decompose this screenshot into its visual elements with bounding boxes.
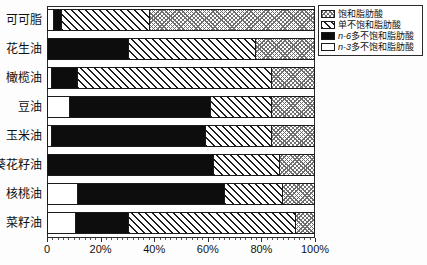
- x-axis-minor-tick: [251, 238, 252, 240]
- stacked-bar: [47, 96, 315, 118]
- x-axis-tick: [208, 238, 209, 242]
- x-axis-minor-tick: [127, 238, 128, 240]
- x-axis-minor-tick: [111, 238, 112, 240]
- bar-segment: [53, 10, 61, 30]
- x-axis-minor-tick: [181, 238, 182, 240]
- legend-swatch-2: [321, 32, 335, 40]
- x-axis-minor-tick: [224, 238, 225, 240]
- x-axis-minor-tick: [176, 238, 177, 240]
- stacked-bar-chart: 可可脂花生油橄榄油豆油玉米油葵花籽油核桃油菜籽油 020%40%60%80%10…: [0, 0, 427, 265]
- x-axis-minor-tick: [197, 238, 198, 240]
- bar-segment: [149, 10, 314, 30]
- x-axis-tick-label-0: 0: [44, 243, 50, 255]
- stacked-bar: [47, 67, 315, 89]
- bar-segment: [69, 97, 210, 117]
- x-axis-tick: [261, 238, 262, 242]
- x-axis-minor-tick: [245, 238, 246, 240]
- bar-segment: [48, 184, 77, 204]
- x-axis-minor-tick: [272, 238, 273, 240]
- bar-row: [47, 209, 315, 238]
- x-axis-minor-tick: [95, 238, 96, 240]
- x-axis-minor-tick: [294, 238, 295, 240]
- stacked-bar: [47, 154, 315, 176]
- x-axis-tick: [154, 238, 155, 242]
- bar-segment: [213, 155, 280, 175]
- bar-segment: [210, 97, 271, 117]
- x-axis-minor-tick: [68, 238, 69, 240]
- y-axis-label-3: 豆油: [18, 93, 42, 122]
- x-axis-tick: [315, 238, 316, 242]
- y-axis-category-labels: 可可脂花生油橄榄油豆油玉米油葵花籽油核桃油菜籽油: [0, 6, 45, 238]
- bar-segment: [205, 126, 272, 146]
- bar-segment: [48, 155, 213, 175]
- x-axis-minor-tick: [299, 238, 300, 240]
- x-axis-minor-tick: [90, 238, 91, 240]
- y-axis-label-6: 核桃油: [6, 180, 42, 209]
- legend-label-1: 单不饱和脂肪酸: [338, 20, 401, 30]
- x-axis-tick-label-5: 100%: [301, 243, 329, 255]
- legend-swatch-0: [321, 10, 335, 18]
- stacked-bar: [47, 183, 315, 205]
- x-axis-minor-tick: [213, 238, 214, 240]
- x-axis-minor-tick: [138, 238, 139, 240]
- x-axis-tick-label-2: 40%: [143, 243, 165, 255]
- y-axis-label-4: 玉米油: [6, 122, 42, 151]
- x-axis-minor-tick: [202, 238, 203, 240]
- x-axis-minor-tick: [122, 238, 123, 240]
- legend-item-1: 单不饱和脂肪酸: [321, 20, 420, 31]
- bar-segment: [75, 213, 128, 233]
- legend-label-2: n-6多不饱和脂肪酸: [338, 31, 414, 41]
- x-axis-minor-tick: [240, 238, 241, 240]
- bar-segment: [255, 39, 314, 59]
- bar-row: [47, 180, 315, 209]
- bar-segment: [77, 68, 271, 88]
- stacked-bar: [47, 9, 315, 31]
- x-axis-minor-tick: [149, 238, 150, 240]
- x-axis-minor-tick: [58, 238, 59, 240]
- bar-segment: [48, 39, 128, 59]
- x-axis-minor-tick: [106, 238, 107, 240]
- y-axis-label-2: 橄榄油: [6, 64, 42, 93]
- x-axis-minor-tick: [170, 238, 171, 240]
- x-axis-minor-tick: [74, 238, 75, 240]
- x-axis-minor-tick: [192, 238, 193, 240]
- x-axis-minor-tick: [219, 238, 220, 240]
- x-axis-minor-tick: [133, 238, 134, 240]
- stacked-bar: [47, 125, 315, 147]
- legend-swatch-3: [321, 43, 335, 51]
- bar-segment: [51, 126, 205, 146]
- stacked-bar: [47, 212, 315, 234]
- x-axis-minor-tick: [267, 238, 268, 240]
- legend-swatch-1: [321, 21, 335, 29]
- x-axis-minor-tick: [310, 238, 311, 240]
- x-axis-tick: [47, 238, 48, 242]
- x-axis-minor-tick: [304, 238, 305, 240]
- x-axis-minor-tick: [79, 238, 80, 240]
- y-axis-label-1: 花生油: [6, 35, 42, 64]
- bar-segment: [48, 97, 69, 117]
- x-axis-tick: [101, 238, 102, 242]
- x-axis-tick-label-4: 80%: [250, 243, 272, 255]
- x-axis-minor-tick: [165, 238, 166, 240]
- x-axis-minor-tick: [283, 238, 284, 240]
- bar-row: [47, 122, 315, 151]
- x-axis-minor-tick: [288, 238, 289, 240]
- bar-segment: [51, 68, 78, 88]
- y-axis-label-0: 可可脂: [6, 6, 42, 35]
- x-axis-minor-tick: [85, 238, 86, 240]
- bar-row: [47, 35, 315, 64]
- bar-segment: [279, 155, 314, 175]
- bar-segment: [61, 10, 149, 30]
- x-axis-minor-tick: [277, 238, 278, 240]
- bar-rows-container: [47, 6, 315, 238]
- bar-segment: [224, 184, 283, 204]
- bar-segment: [271, 68, 314, 88]
- legend-label-3: n-3多不饱和脂肪酸: [338, 42, 414, 52]
- stacked-bar: [47, 38, 315, 60]
- legend-item-3: n-3多不饱和脂肪酸: [321, 42, 420, 53]
- legend-item-2: n-6多不饱和脂肪酸: [321, 31, 420, 42]
- bar-row: [47, 151, 315, 180]
- x-axis-minor-tick: [235, 238, 236, 240]
- bar-segment: [282, 184, 314, 204]
- x-axis-minor-tick: [160, 238, 161, 240]
